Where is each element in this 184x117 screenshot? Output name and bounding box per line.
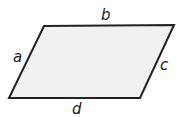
side-label-a: a [13,48,22,66]
side-label-b: b [101,6,111,24]
side-label-d: d [72,100,82,117]
side-label-c: c [160,56,169,74]
parallelogram-diagram: b a c d [0,0,184,117]
parallelogram-shape [9,25,174,98]
